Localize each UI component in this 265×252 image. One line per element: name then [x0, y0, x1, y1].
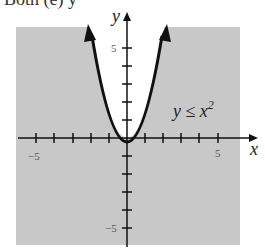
x-tick-5: 5 [215, 147, 221, 159]
chart: y x 5 −5 −5 5 y ≤ x2 [0, 0, 265, 252]
inequality-annotation: y ≤ x2 [171, 98, 214, 121]
x-tick-neg5: −5 [28, 150, 40, 162]
y-axis-label: y [110, 6, 120, 26]
x-axis-label: x [249, 139, 258, 159]
y-tick-5: 5 [111, 42, 117, 54]
y-axis-arrow-icon [123, 12, 131, 21]
y-tick-neg5: −5 [105, 222, 117, 234]
shaded-region [16, 27, 240, 245]
